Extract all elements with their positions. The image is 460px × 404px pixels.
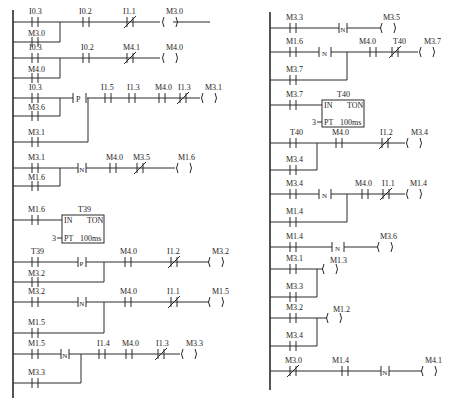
coil-label: M3.1 (205, 83, 222, 92)
coil-label: M3.0 (166, 7, 183, 16)
timer-type: TON (347, 101, 364, 110)
contact-label: I0.3 (29, 43, 42, 52)
right-network: N M3.3 M3.5 N M1.6 M3.7 M4.0 T40 M3.7 (270, 12, 442, 390)
contact-label: M4.0 (359, 37, 376, 46)
contact-label: M3.2 (286, 303, 303, 312)
coil-icon (381, 23, 396, 33)
contact-label: M3.1 (28, 153, 45, 162)
contact-label: I1.3 (127, 83, 140, 92)
rung-R6: N M1.4 M3.6 (270, 232, 397, 253)
contact-label: M3.0 (285, 356, 302, 365)
ladder-diagram-svg: I0.3 M3.0 I0.2 I1.1 M3.0 I0.3 M4.0 I0.2 … (0, 0, 460, 404)
timer-input-label: IN (324, 101, 333, 110)
coil-icon (209, 257, 224, 267)
coil-label: M1.2 (333, 305, 350, 314)
negative-edge-label: N (79, 300, 84, 308)
contact-label: M3.5 (133, 153, 150, 162)
contact-label: T40 (290, 128, 303, 137)
negative-edge-label: N (335, 245, 340, 253)
contact-label: M3.1 (286, 254, 303, 263)
rung-R2: N M1.6 M3.7 M4.0 T40 M3.7 (270, 37, 441, 85)
rung-L3: P I0.3 M3.6 M3.1 I1.5 I1.3 M4.0 I1.3 M3.… (13, 83, 222, 147)
coil-label: M3.2 (212, 247, 229, 256)
contact-label: M3.6 (28, 103, 45, 112)
coil-label: M1.6 (178, 153, 195, 162)
contact-label: M3.0 (28, 29, 45, 38)
coil-icon (407, 138, 422, 148)
coil-icon (323, 264, 338, 274)
contact-label: I1.3 (156, 339, 169, 348)
contact-label: M3.2 (28, 287, 45, 296)
contact-label: M1.6 (286, 37, 303, 46)
coil-label: M4.0 (166, 43, 183, 52)
rung-R8: M3.2 M3.4 M1.2 (270, 303, 350, 351)
contact-label: M1.4 (332, 356, 349, 365)
coil-icon (209, 297, 224, 307)
timer-preset-label: PT (64, 234, 73, 243)
contact-label: M4.0 (355, 179, 372, 188)
negative-edge-label: N (340, 26, 345, 34)
contact-label: M3.3 (286, 282, 303, 291)
rung-R3-timer: M3.7 T40 IN TON PT 100ms 3 (270, 90, 364, 127)
contact-label: M1.6 (28, 205, 45, 214)
negative-edge-label: N (322, 50, 327, 58)
timer-base: 100ms (340, 118, 361, 127)
timer-preset-value: 3 (312, 118, 316, 127)
negative-edge-label: N (322, 192, 327, 200)
contact-label: M1.4 (286, 207, 303, 216)
contact-label: M4.1 (123, 43, 140, 52)
coil-icon (327, 313, 342, 323)
rung-L8: N M1.5 M3.3 I1.4 M4.0 I1.3 M3.3 (13, 339, 203, 388)
timer-name: T40 (337, 90, 350, 99)
positive-edge-label: P (76, 95, 81, 104)
contact-label: I1.5 (101, 83, 114, 92)
contact-label: M3.7 (286, 65, 303, 74)
left-network: I0.3 M3.0 I0.2 I1.1 M3.0 I0.3 M4.0 I0.2 … (13, 7, 229, 398)
contact-label: M4.0 (122, 339, 139, 348)
coil-label: M4.1 (425, 356, 442, 365)
contact-label: M3.4 (286, 179, 303, 188)
coil-icon (163, 53, 178, 63)
rung-L6: P T39 M3.2 M4.0 I1.2 M3.2 (13, 247, 229, 287)
coil-icon (407, 189, 422, 199)
coil-label: M1.4 (410, 179, 427, 188)
coil-icon (422, 366, 437, 376)
rung-R5: N M3.4 M1.4 M4.0 I1.1 M1.4 (270, 179, 427, 227)
timer-type: TON (87, 216, 104, 225)
rung-L2: I0.3 M4.0 I0.2 M4.1 M4.0 (13, 43, 183, 83)
contact-label: M4.0 (120, 287, 137, 296)
contact-label: M3.4 (286, 331, 303, 340)
negative-edge-label: N (382, 369, 387, 377)
coil-label: M1.3 (330, 256, 347, 265)
positive-edge-label: P (80, 260, 84, 268)
contact-label: I1.1 (123, 7, 136, 16)
coil-icon (182, 349, 197, 359)
timer-base: 100ms (80, 234, 101, 243)
timer-preset-label: PT (324, 118, 333, 127)
contact-label: T40 (393, 37, 406, 46)
rung-L5-timer: M1.6 T39 IN TON PT 100ms 3 (13, 205, 104, 243)
coil-icon (378, 242, 393, 252)
contact-label: M1.6 (28, 173, 45, 182)
contact-label: I0.3 (29, 7, 42, 16)
rung-R1: N M3.3 M3.5 (270, 13, 400, 34)
contact-label: M4.0 (28, 65, 45, 74)
timer-input-label: IN (64, 216, 73, 225)
contact-label: I1.2 (167, 247, 180, 256)
contact-label: M3.1 (28, 128, 45, 137)
contact-label: M4.0 (332, 128, 349, 137)
rung-L1: I0.3 M3.0 I0.2 I1.1 M3.0 (13, 7, 210, 47)
rung-R9: N M3.0 M1.4 M4.1 (270, 356, 442, 377)
coil-label: M3.3 (186, 339, 203, 348)
contact-label: M3.4 (286, 155, 303, 164)
coil-icon (177, 163, 192, 173)
contact-label: M3.7 (286, 90, 303, 99)
rung-R4: T40 M3.4 M4.0 I1.2 M3.4 (270, 128, 428, 175)
contact-label: T39 (31, 247, 44, 256)
coil-label: M1.5 (212, 287, 229, 296)
timer-preset-value: 3 (52, 234, 56, 243)
rung-L7: N M3.2 M1.5 M4.0 I1.1 M1.5 (13, 287, 229, 338)
contact-label: M1.5 (28, 318, 45, 327)
contact-label: M3.3 (286, 13, 303, 22)
contact-label: M3.2 (28, 269, 45, 278)
